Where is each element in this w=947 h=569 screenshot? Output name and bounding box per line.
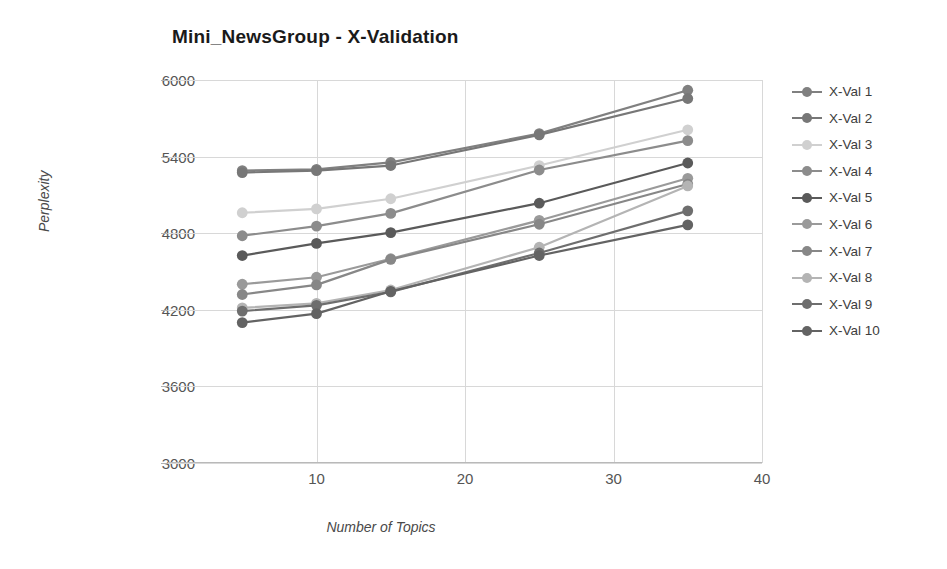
data-point xyxy=(385,254,396,265)
legend-label: X-Val 6 xyxy=(829,217,872,232)
legend-swatch-icon xyxy=(792,192,822,204)
legend-item-6[interactable]: X-Val 6 xyxy=(792,217,880,232)
series-9 xyxy=(237,205,693,316)
y-tick-mark xyxy=(161,386,168,387)
legend-swatch-icon xyxy=(792,272,822,284)
data-point xyxy=(682,205,693,216)
x-tick-label: 30 xyxy=(584,470,644,487)
x-axis-title: Number of Topics xyxy=(0,519,762,535)
y-tick-mark xyxy=(161,157,168,158)
y-tick-mark xyxy=(161,80,168,81)
data-point xyxy=(534,165,545,176)
data-point xyxy=(385,193,396,204)
data-point xyxy=(682,220,693,231)
data-point xyxy=(682,93,693,104)
data-point xyxy=(311,280,322,291)
legend-marker-dot xyxy=(802,193,812,203)
data-point xyxy=(237,250,248,261)
series-line xyxy=(242,186,688,308)
legend-label: X-Val 7 xyxy=(829,244,872,259)
legend-marker-dot xyxy=(802,246,812,256)
data-point xyxy=(311,308,322,319)
x-tick-label: 20 xyxy=(435,470,495,487)
data-point xyxy=(237,317,248,328)
legend-marker-dot xyxy=(802,166,812,176)
data-point xyxy=(237,289,248,300)
grid-line-horizontal xyxy=(168,463,762,464)
data-point xyxy=(385,286,396,297)
legend-item-2[interactable]: X-Val 2 xyxy=(792,111,880,126)
legend-label: X-Val 8 xyxy=(829,270,872,285)
legend-item-5[interactable]: X-Val 5 xyxy=(792,190,880,205)
data-point xyxy=(385,227,396,238)
legend-swatch-icon xyxy=(792,165,822,177)
y-axis-title: Perplexity xyxy=(36,171,52,232)
data-point xyxy=(237,279,248,290)
legend-item-3[interactable]: X-Val 3 xyxy=(792,137,880,152)
plot-area xyxy=(168,80,762,463)
legend-label: X-Val 2 xyxy=(829,111,872,126)
legend-marker-dot xyxy=(802,273,812,283)
data-point xyxy=(311,165,322,176)
legend-item-1[interactable]: X-Val 1 xyxy=(792,84,880,99)
series-lines xyxy=(168,80,762,463)
legend-label: X-Val 9 xyxy=(829,297,872,312)
x-tick-label: 10 xyxy=(287,470,347,487)
series-line xyxy=(242,141,688,236)
data-point xyxy=(682,124,693,135)
legend-swatch-icon xyxy=(792,86,822,98)
legend-label: X-Val 10 xyxy=(829,323,880,338)
data-point xyxy=(682,135,693,146)
data-point xyxy=(237,230,248,241)
legend-label: X-Val 5 xyxy=(829,190,872,205)
data-point xyxy=(534,198,545,209)
legend-marker-dot xyxy=(802,326,812,336)
y-tick-mark xyxy=(161,463,168,464)
legend-marker-dot xyxy=(802,219,812,229)
legend-marker-dot xyxy=(802,299,812,309)
legend-label: X-Val 4 xyxy=(829,164,872,179)
legend-swatch-icon xyxy=(792,112,822,124)
data-point xyxy=(385,208,396,219)
x-tick-label: 40 xyxy=(732,470,792,487)
chart-title: Mini_NewsGroup - X-Validation xyxy=(172,26,459,48)
data-point xyxy=(682,158,693,169)
legend-swatch-icon xyxy=(792,298,822,310)
chart-legend: X-Val 1X-Val 2X-Val 3X-Val 4X-Val 5X-Val… xyxy=(792,84,880,338)
y-tick-mark xyxy=(161,233,168,234)
legend-marker-dot xyxy=(802,87,812,97)
chart-root: Mini_NewsGroup - X-Validation Perplexity… xyxy=(0,0,947,569)
legend-item-4[interactable]: X-Val 4 xyxy=(792,164,880,179)
series-line xyxy=(242,211,688,311)
data-point xyxy=(311,221,322,232)
data-point xyxy=(311,204,322,215)
legend-marker-dot xyxy=(802,113,812,123)
legend-item-7[interactable]: X-Val 7 xyxy=(792,244,880,259)
y-tick-mark xyxy=(161,310,168,311)
data-point xyxy=(237,167,248,178)
data-point xyxy=(682,181,693,192)
data-point xyxy=(311,238,322,249)
legend-swatch-icon xyxy=(792,139,822,151)
data-point xyxy=(237,207,248,218)
legend-swatch-icon xyxy=(792,245,822,257)
series-line xyxy=(242,90,688,170)
legend-swatch-icon xyxy=(792,218,822,230)
series-2 xyxy=(237,93,693,178)
legend-item-9[interactable]: X-Val 9 xyxy=(792,297,880,312)
legend-item-10[interactable]: X-Val 10 xyxy=(792,323,880,338)
legend-swatch-icon xyxy=(792,325,822,337)
legend-marker-dot xyxy=(802,140,812,150)
data-point xyxy=(237,306,248,317)
legend-item-8[interactable]: X-Val 8 xyxy=(792,270,880,285)
data-point xyxy=(534,250,545,261)
legend-label: X-Val 3 xyxy=(829,137,872,152)
data-point xyxy=(534,219,545,230)
data-point xyxy=(534,129,545,140)
legend-label: X-Val 1 xyxy=(829,84,872,99)
series-1 xyxy=(237,85,693,176)
series-10 xyxy=(237,220,693,328)
data-point xyxy=(385,160,396,171)
grid-line-vertical xyxy=(762,80,763,463)
